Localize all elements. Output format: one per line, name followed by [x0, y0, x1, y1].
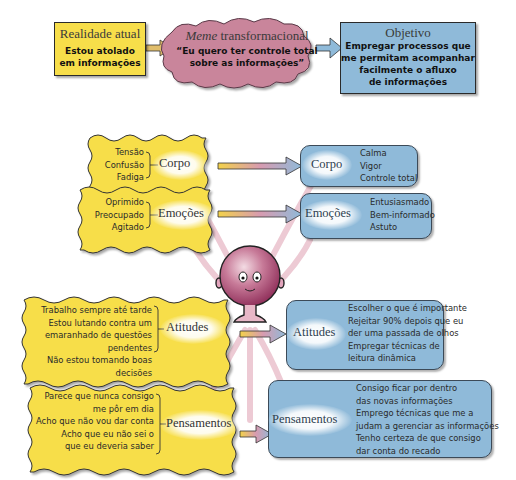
meme-title: Meme transformacional — [172, 28, 322, 43]
left-category-corpo: Corpo — [159, 156, 190, 171]
objective-body-4: de informações — [341, 76, 475, 88]
left-atitudes-item: Estou lutando contra um — [20, 317, 152, 330]
left-pensamentos-item: que eu deveria saber — [26, 440, 154, 453]
left-corpo-items: Tensão Confusão Fadiga — [80, 146, 144, 184]
left-pensamentos-item: Parece que nunca consigo — [26, 390, 154, 403]
left-corpo-item: Tensão — [80, 146, 144, 159]
right-emocoes-item: Astuto — [370, 221, 435, 234]
meme-title-rest: transformacional — [217, 28, 308, 43]
right-atitudes-items: Escolher o que é importante Rejeitar 90%… — [348, 302, 467, 365]
left-corpo-item: Fadiga — [80, 171, 144, 184]
left-corpo-item: Confusão — [80, 159, 144, 172]
right-pensamentos-item: Consigo ficar por dentro — [356, 382, 499, 395]
left-atitudes-item: Não estou tomando boas decisões — [20, 354, 152, 379]
right-pensamentos-items: Consigo ficar por dentro das novas infor… — [356, 382, 499, 457]
right-atitudes-item: Rejeitar 90% depois que eu — [348, 315, 467, 328]
left-emocoes-item: Preocupado — [70, 209, 144, 222]
right-atitudes-item: leitura dinâmica — [348, 352, 467, 365]
right-emocoes-items: Entusiasmado Bem-informado Astuto — [370, 196, 435, 234]
right-corpo-items: Calma Vigor Controle total — [360, 147, 417, 185]
left-pensamentos-items: Parece que nunca consigo me pôr em dia A… — [26, 390, 154, 453]
left-pensamentos-item: Acho que eu não sei o — [26, 428, 154, 441]
current-reality-title: Realidade atual — [55, 26, 145, 41]
right-pensamentos-item: dar conta do recado — [356, 445, 499, 458]
right-category-pensamentos: Pensamentos — [272, 412, 337, 427]
right-category-emocoes: Emoções — [305, 206, 351, 221]
meme-title-italic: Meme — [185, 28, 217, 43]
right-emocoes-item: Entusiasmado — [370, 196, 435, 209]
left-pensamentos-item: Acho que não vou dar conta — [26, 415, 154, 428]
meme-text: Meme transformacional “Eu quero ter cont… — [172, 28, 322, 69]
right-category-atitudes: Atitudes — [293, 325, 335, 340]
left-atitudes-items: Trabalho sempre até tarde Estou lutando … — [20, 304, 152, 379]
right-pensamentos-item: Emprego técnicas que me a — [356, 407, 499, 420]
objective-body-1: Empregar processos que — [341, 40, 475, 52]
right-emocoes-item: Bem-informado — [370, 209, 435, 222]
meme-body-1: “Eu quero ter controle total — [172, 45, 322, 57]
meme-body-2: sobre as informações” — [172, 57, 322, 69]
left-category-emocoes: Emoções — [158, 206, 204, 221]
right-pensamentos-item: judam a gerenciar as informações — [356, 420, 499, 433]
current-reality-body-2: em informações — [55, 57, 145, 69]
right-pensamentos-item: Tenho certeza de que consigo — [356, 432, 499, 445]
left-emocoes-item: Agitado — [70, 221, 144, 234]
left-pensamentos-item: me pôr em dia — [26, 403, 154, 416]
right-category-corpo: Corpo — [311, 157, 342, 172]
objective-box: Objetivo Empregar processos que me permi… — [340, 22, 476, 94]
right-corpo-item: Calma — [360, 147, 417, 160]
right-corpo-item: Vigor — [360, 160, 417, 173]
left-emocoes-items: Oprimido Preocupado Agitado — [70, 196, 144, 234]
right-atitudes-item: Empregar técnicas de — [348, 340, 467, 353]
left-category-atitudes: Atitudes — [166, 320, 208, 335]
right-atitudes-item: der uma passada de olhos — [348, 327, 467, 340]
current-reality-body-1: Estou atolado — [55, 45, 145, 57]
right-pensamentos-item: das novas informações — [356, 395, 499, 408]
current-reality-box: Realidade atual Estou atolado em informa… — [54, 22, 146, 76]
objective-body-3: facilmente o afluxo — [341, 64, 475, 76]
left-atitudes-item: Trabalho sempre até tarde — [20, 304, 152, 317]
right-atitudes-item: Escolher o que é importante — [348, 302, 467, 315]
left-emocoes-item: Oprimido — [70, 196, 144, 209]
right-corpo-item: Controle total — [360, 172, 417, 185]
left-category-pensamentos: Pensamentos — [166, 416, 231, 431]
left-atitudes-item: emaranhado de questões pendentes — [20, 329, 152, 354]
objective-title: Objetivo — [341, 25, 475, 40]
objective-body-2: me permitam acompanhar — [341, 52, 475, 64]
